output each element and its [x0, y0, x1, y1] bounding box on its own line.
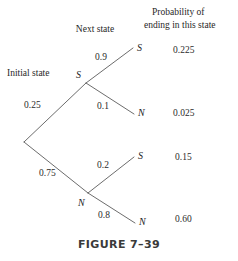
tree-branches	[0, 0, 238, 261]
leaf-node-1: S	[137, 43, 142, 53]
branch-probability-N-to-N: 0.8	[98, 211, 110, 221]
node-level1-top: S	[76, 70, 81, 80]
branch-root-to-N	[24, 142, 88, 193]
branch-S-to-N	[86, 83, 134, 114]
branch-S-to-S	[86, 48, 133, 83]
heading-probability-line2: ending in this state	[144, 21, 216, 31]
branch-probability-S-to-N: 0.1	[97, 102, 109, 112]
result-probability-SS: 0.225	[173, 46, 194, 56]
branch-probability-root-to-S: 0.25	[24, 101, 41, 111]
leaf-node-3: S	[138, 151, 143, 161]
figure-probability-tree: Next state Probability of ending in this…	[0, 0, 238, 261]
result-probability-NN: 0.60	[175, 215, 192, 225]
result-probability-NS: 0.15	[175, 153, 192, 163]
branch-N-to-S	[88, 157, 134, 193]
node-level1-bottom: N	[78, 198, 85, 208]
result-probability-SN: 0.025	[173, 109, 194, 119]
figure-caption: FIGURE 7–39	[0, 238, 238, 251]
branch-N-to-N	[88, 193, 135, 223]
leaf-node-4: N	[139, 217, 146, 227]
branch-probability-S-to-S: 0.9	[95, 53, 107, 63]
heading-next-state: Next state	[60, 25, 130, 35]
heading-initial-state: Initial state	[7, 69, 49, 79]
branch-root-to-S	[24, 83, 86, 142]
branch-probability-N-to-S: 0.2	[97, 161, 109, 171]
branch-probability-root-to-N: 0.75	[39, 169, 56, 179]
heading-probability-line1: Probability of	[152, 8, 205, 18]
leaf-node-2: N	[138, 108, 145, 118]
